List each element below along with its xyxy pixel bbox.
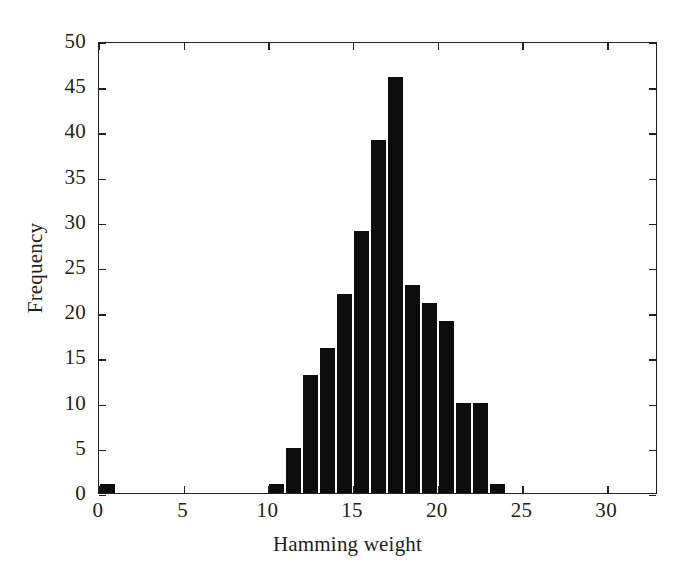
y-axis-tick [99, 88, 106, 89]
histogram-bar [455, 403, 472, 493]
x-axis-tick-top [353, 43, 354, 50]
x-tick-label: 0 [68, 500, 128, 521]
histogram-bar [99, 484, 116, 493]
x-axis-tick [268, 486, 269, 493]
histogram-bar [438, 321, 455, 493]
x-axis-tick-top [438, 43, 439, 50]
y-axis-tick-right [649, 359, 656, 360]
x-tick-label: 15 [322, 500, 382, 521]
y-tick-label: 5 [38, 438, 86, 459]
x-axis-tick-top [607, 43, 608, 50]
x-tick-label: 20 [407, 500, 467, 521]
histogram-bar [404, 285, 421, 493]
x-tick-label: 5 [153, 500, 213, 521]
y-axis-label: Frequency [23, 168, 48, 368]
y-axis-tick [99, 359, 106, 360]
histogram-figure: 05101520253035404550 051015202530 Hammin… [0, 0, 695, 577]
y-axis-tick-right [649, 405, 656, 406]
y-axis-tick-right [649, 495, 656, 496]
x-axis-label: Hamming weight [0, 532, 695, 557]
y-axis-tick [99, 495, 106, 496]
y-axis-tick-right [649, 179, 656, 180]
histogram-bar [353, 231, 370, 493]
y-axis-tick-right [649, 133, 656, 134]
x-axis-tick [438, 486, 439, 493]
y-axis-tick-right [649, 314, 656, 315]
x-axis-tick [184, 486, 185, 493]
x-axis-tick-top [268, 43, 269, 50]
y-axis-tick [99, 133, 106, 134]
y-axis-tick [99, 43, 106, 44]
histogram-bar [302, 375, 319, 493]
x-axis-tick [99, 486, 100, 493]
y-tick-label: 10 [38, 393, 86, 414]
x-axis-tick [522, 486, 523, 493]
x-axis-tick [607, 486, 608, 493]
histogram-bar [336, 294, 353, 493]
x-tick-label: 30 [576, 500, 636, 521]
y-axis-tick-right [649, 450, 656, 451]
histogram-bar [387, 77, 404, 493]
y-tick-label: 40 [38, 121, 86, 142]
y-axis-tick [99, 269, 106, 270]
histogram-bar [319, 348, 336, 493]
histogram-bar [268, 484, 285, 493]
x-axis-tick-top [184, 43, 185, 50]
histogram-bar [285, 448, 302, 493]
y-axis-tick [99, 224, 106, 225]
y-tick-label: 45 [38, 76, 86, 97]
histogram-bar [370, 140, 387, 493]
y-axis-tick-right [649, 269, 656, 270]
histogram-bar [489, 484, 506, 493]
y-axis-tick [99, 314, 106, 315]
y-tick-label: 50 [38, 31, 86, 52]
bars-layer [99, 43, 656, 493]
y-axis-tick-right [649, 88, 656, 89]
x-tick-label: 10 [237, 500, 297, 521]
y-axis-tick-right [649, 224, 656, 225]
plot-area [98, 42, 657, 494]
x-tick-label: 25 [491, 500, 551, 521]
x-axis-tick-top [522, 43, 523, 50]
y-axis-tick [99, 450, 106, 451]
y-axis-tick [99, 179, 106, 180]
histogram-bar [421, 303, 438, 493]
y-axis-tick-right [649, 43, 656, 44]
x-axis-tick [353, 486, 354, 493]
histogram-bar [472, 403, 489, 493]
y-axis-tick [99, 405, 106, 406]
